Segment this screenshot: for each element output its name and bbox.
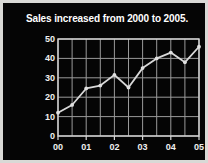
chart-title: Sales increased from 2000 to 2005. xyxy=(3,13,208,24)
x-axis-tick-labels: 000102030405 xyxy=(58,39,199,136)
y-tick-label: 10 xyxy=(45,112,55,122)
x-tick-label: 05 xyxy=(194,142,204,152)
x-tick-label: 02 xyxy=(109,142,119,152)
x-tick-label: 00 xyxy=(53,142,63,152)
y-tick-label: 20 xyxy=(45,92,55,102)
x-tick-label: 04 xyxy=(166,142,176,152)
chart-container: Sales increased from 2000 to 2005. Sales… xyxy=(0,0,208,163)
x-tick-label: 01 xyxy=(81,142,91,152)
y-tick-label: 0 xyxy=(50,131,55,141)
plot-area: 50403020100 000102030405 xyxy=(58,39,199,136)
y-axis-title: Sales, millions of dollars xyxy=(0,47,3,143)
y-axis-title-line2: millions of dollars xyxy=(0,47,3,143)
y-tick-label: 40 xyxy=(45,53,55,63)
y-tick-label: 50 xyxy=(45,34,55,44)
y-tick-label: 30 xyxy=(45,73,55,83)
x-tick-label: 03 xyxy=(138,142,148,152)
